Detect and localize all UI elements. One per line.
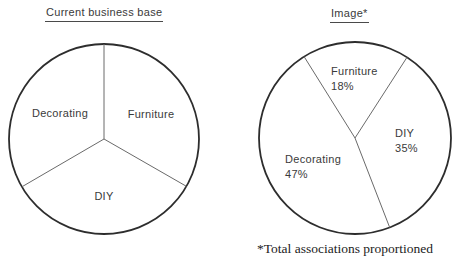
slice-label-decorating: Decorating bbox=[32, 106, 88, 121]
slice-label-furniture: Furniture bbox=[128, 107, 175, 122]
slice-label-decorating: Decorating 47% bbox=[285, 152, 341, 181]
figure: Current business base Image* FurnitureDI… bbox=[0, 0, 473, 263]
slice-label-diy: DIY 35% bbox=[395, 126, 418, 155]
slice-label-diy: DIY bbox=[94, 189, 113, 204]
label-layer: FurnitureDIYDecoratingFurniture 18%DIY 3… bbox=[0, 0, 473, 263]
slice-label-furniture: Furniture 18% bbox=[331, 64, 378, 93]
footnote: *Total associations proportioned bbox=[257, 241, 433, 257]
